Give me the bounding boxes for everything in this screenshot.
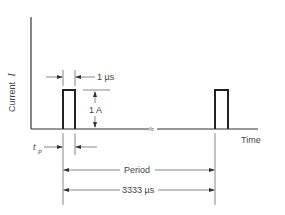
pulse-1 [63,90,75,129]
arrowhead-icon [57,75,63,79]
y-axis-label-text: Current [7,81,17,112]
arrowhead-icon [209,168,215,172]
x-axis-label: Time [241,135,261,145]
arrowhead-icon [75,75,81,79]
tp-label-main: t [33,141,36,152]
tp-label-subscript: p [37,147,42,155]
arrowhead-icon [93,122,97,128]
tp-label: t p [33,141,42,155]
pulse-2 [215,90,228,129]
pulse-train-diagram: ≈ Current I Time 1 µs 1 A t p Period 33 [0,0,285,215]
arrowhead-icon [75,145,81,149]
arrowhead-icon [57,145,63,149]
amplitude-label: 1 A [89,105,102,115]
y-axis-label: Current I [6,72,17,112]
period-label: Period [124,165,150,175]
period-value-label: 3333 µs [122,185,155,195]
axis-break-mark: ≈ [149,124,154,134]
arrowhead-icon [63,168,69,172]
y-axis-label-symbol: I [6,72,17,77]
arrowhead-icon [63,188,69,192]
pulse-width-label: 1 µs [97,72,115,82]
arrowhead-icon [209,188,215,192]
arrowhead-icon [93,91,97,97]
